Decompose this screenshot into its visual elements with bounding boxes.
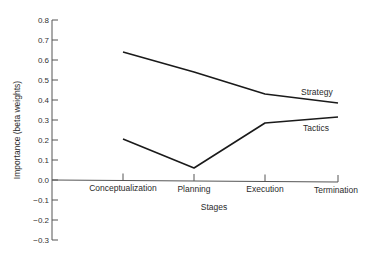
y-tick-label: 0.2 [38, 136, 50, 145]
x-axis-title: Stages [201, 202, 227, 212]
x-category-label: Conceptualization [89, 183, 157, 193]
y-tick-label: 0.6 [38, 56, 50, 65]
x-axis [52, 180, 338, 182]
y-ticks: 0.80.70.60.50.40.30.20.10.0−0.1−0.2−0.3 [33, 16, 58, 245]
y-axis-title: Importance (beta weights) [12, 81, 22, 179]
y-tick-label: 0.0 [38, 176, 50, 185]
series-label-strategy: Strategy [301, 87, 333, 97]
x-category-label: Planning [177, 184, 210, 194]
x-category-label: Execution [246, 184, 284, 194]
x-ticks: ConceptualizationPlanningExecutionTermin… [89, 173, 358, 195]
y-tick-label: −0.3 [33, 236, 49, 245]
y-tick-label: −0.2 [33, 216, 49, 225]
y-tick-label: 0.1 [38, 156, 50, 165]
series-label-tactics: Tactics [303, 123, 329, 133]
x-category-label: Termination [314, 185, 358, 195]
y-tick-label: 0.4 [38, 96, 50, 105]
series-lines [123, 52, 338, 168]
y-tick-label: 0.5 [38, 76, 50, 85]
y-tick-label: −0.1 [33, 196, 49, 205]
line-chart: 0.80.70.60.50.40.30.20.10.0−0.1−0.2−0.3 … [0, 0, 382, 259]
y-tick-label: 0.3 [38, 116, 50, 125]
y-tick-label: 0.8 [38, 16, 50, 25]
y-tick-label: 0.7 [38, 36, 50, 45]
